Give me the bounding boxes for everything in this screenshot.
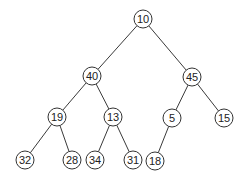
tree-edge [98, 125, 109, 151]
tree-edge [198, 84, 219, 111]
node-label: 34 [89, 154, 101, 166]
tree-node-28: 28 [63, 151, 81, 169]
tree-node-32: 32 [16, 151, 34, 169]
tree-edge [60, 125, 69, 151]
tree-node-10: 10 [134, 10, 152, 28]
node-label: 10 [137, 13, 149, 25]
tree-edge [158, 126, 168, 152]
tree-node-19: 19 [48, 108, 66, 126]
tree-node-15: 15 [215, 109, 233, 127]
tree-edge [96, 84, 109, 109]
node-label: 32 [19, 154, 31, 166]
node-label: 40 [86, 70, 98, 82]
node-label: 18 [149, 155, 161, 167]
node-label: 31 [127, 154, 139, 166]
nodes: 10404519135153228343118 [16, 10, 233, 170]
tree-node-40: 40 [83, 67, 101, 85]
node-label: 28 [66, 154, 78, 166]
tree-edge [63, 83, 86, 110]
tree-edge [98, 26, 137, 70]
tree-node-5: 5 [163, 109, 181, 127]
tree-node-13: 13 [104, 108, 122, 126]
edges [30, 26, 218, 153]
binary-tree-diagram: 10404519135153228343118 [0, 0, 247, 181]
tree-edge [30, 124, 51, 153]
tree-node-34: 34 [86, 151, 104, 169]
tree-edge [149, 26, 186, 70]
tree-node-18: 18 [146, 152, 164, 170]
node-label: 5 [169, 112, 175, 124]
node-label: 13 [107, 111, 119, 123]
node-label: 19 [51, 111, 63, 123]
node-label: 45 [186, 71, 198, 83]
tree-edge [117, 125, 129, 152]
node-label: 15 [218, 112, 230, 124]
tree-node-31: 31 [124, 151, 142, 169]
tree-edge [176, 85, 188, 110]
tree-node-45: 45 [183, 68, 201, 86]
